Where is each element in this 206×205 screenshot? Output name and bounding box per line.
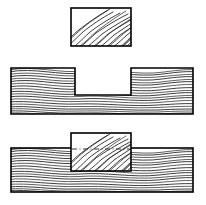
diagram-canvas: [0, 0, 206, 205]
part-block: [55, 6, 168, 58]
joinery-diagram: [0, 0, 206, 205]
part-notched-board: [8, 68, 197, 116]
part-assembly: [8, 131, 197, 194]
